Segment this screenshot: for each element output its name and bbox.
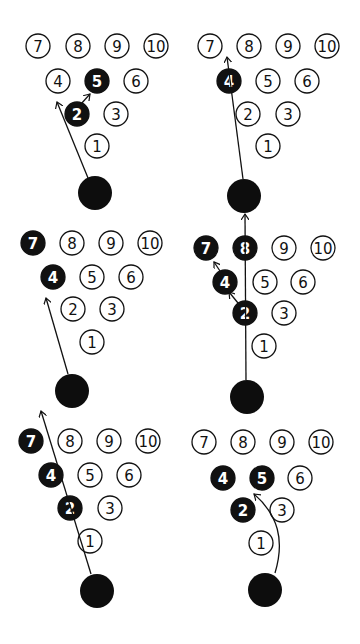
bowling-ball [80,574,114,608]
pin-number: 3 [277,502,287,520]
pin-7-hit: 7 [21,231,45,255]
pin-6: 6 [124,69,148,93]
pin-number: 5 [92,73,102,91]
pin-number: 7 [199,434,209,452]
pin-2: 2 [61,297,85,321]
pin-8: 8 [60,231,84,255]
pin-number: 8 [244,38,254,56]
pin-number: 6 [298,274,308,292]
pin-5: 5 [256,69,280,93]
pin-number: 1 [263,138,273,156]
pin-4-hit: 4 [213,270,237,294]
pin-8: 8 [58,429,82,453]
pin-number: 2 [68,301,78,319]
pin-number: 7 [28,235,38,253]
pin-number: 10 [317,38,336,56]
pin-4-hit: 4 [211,466,235,490]
pin-number: 4 [53,73,63,91]
pin-number: 9 [104,433,114,451]
pin-number: 4 [48,269,58,287]
panel-3: 78910456231 [21,231,162,408]
pin-6: 6 [117,463,141,487]
pin-6: 6 [288,466,312,490]
bowling-ball [248,573,282,607]
pin-10: 10 [309,430,333,454]
pin-number: 8 [67,235,77,253]
pin-2-hit: 2 [231,498,255,522]
pin-number: 8 [238,434,248,452]
pin-10: 10 [138,231,162,255]
pin-5-hit: 5 [85,69,109,93]
pin-number: 1 [256,535,266,553]
bowling-ball [55,374,89,408]
pin-1: 1 [80,330,104,354]
pin-1: 1 [78,529,102,553]
pin-number: 10 [313,240,332,258]
pin-number: 10 [138,433,157,451]
pin-number: 7 [26,433,36,451]
pin-number: 3 [107,301,117,319]
pin-number: 9 [279,240,289,258]
pin-5: 5 [78,463,102,487]
pin-number: 9 [283,38,293,56]
pin-number: 10 [140,235,159,253]
pin-number: 5 [85,467,95,485]
pin-number: 2 [72,106,82,124]
pin-1: 1 [249,531,273,555]
pin-2-hit: 2 [65,102,89,126]
panel-2: 78910456231 [198,34,339,213]
pin-5: 5 [80,265,104,289]
pin-number: 3 [111,106,121,124]
pin-3: 3 [276,102,300,126]
pin-8: 8 [66,34,90,58]
pin-number: 1 [85,533,95,551]
pin-7: 7 [26,34,50,58]
panels-group: 7891045623178910456231789104562317891045… [19,34,339,608]
panel-4: 78910456231 [194,214,335,414]
pin-3: 3 [272,301,296,325]
pin-4-hit: 4 [39,463,63,487]
pin-3: 3 [98,496,122,520]
pin-3: 3 [104,102,128,126]
pin-number: 8 [65,433,75,451]
pin-number: 4 [220,274,230,292]
pin-3: 3 [100,297,124,321]
bowling-diagram: 7891045623178910456231789104562317891045… [0,0,360,644]
pin-2: 2 [236,102,260,126]
pin-9: 9 [97,429,121,453]
pin-number: 2 [238,502,248,520]
bowling-ball [227,179,261,213]
pin-7-hit: 7 [19,429,43,453]
pin-4-hit: 4 [41,265,65,289]
pin-number: 6 [302,73,312,91]
pin-number: 1 [87,334,97,352]
pin-number: 1 [259,338,269,356]
pin-1: 1 [85,134,109,158]
pin-number: 9 [106,235,116,253]
pin-6: 6 [291,270,315,294]
pin-number: 6 [126,269,136,287]
trajectory-arrow [214,262,220,271]
pin-4: 4 [46,69,70,93]
pin-8: 8 [237,34,261,58]
pin-number: 5 [260,274,270,292]
pin-10: 10 [144,34,168,58]
pin-5: 5 [253,270,277,294]
pin-number: 7 [33,38,43,56]
pin-9: 9 [276,34,300,58]
pin-10: 10 [136,429,160,453]
pin-6: 6 [295,69,319,93]
pin-6: 6 [119,265,143,289]
panel-6: 78910456231 [192,430,333,607]
pin-9: 9 [272,236,296,260]
pin-number: 3 [105,500,115,518]
pin-7-hit: 7 [194,236,218,260]
pin-2-hit: 2 [58,496,82,520]
pin-9: 9 [105,34,129,58]
pin-number: 6 [124,467,134,485]
pin-number: 10 [311,434,330,452]
pin-8: 8 [231,430,255,454]
pin-10: 10 [315,34,339,58]
pin-9: 9 [270,430,294,454]
bowling-ball [78,176,112,210]
